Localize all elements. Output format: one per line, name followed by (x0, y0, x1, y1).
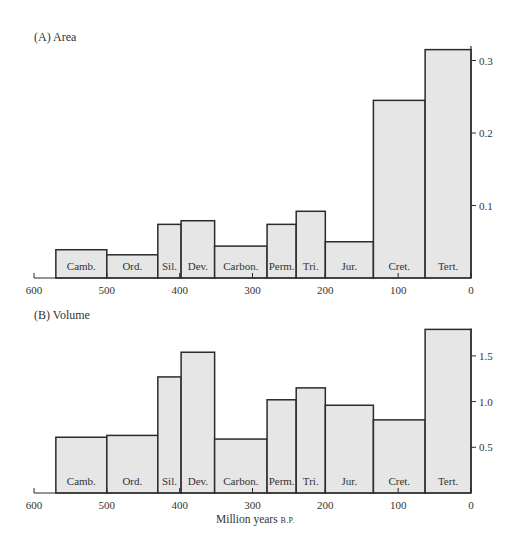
y-tick-label: 0.5 (479, 441, 493, 453)
x-tick-label: 100 (390, 499, 407, 511)
bar-label: Dev. (188, 260, 209, 272)
bar-label: Ord. (122, 260, 142, 272)
bar-dev: Dev. (181, 352, 215, 493)
x-tick-label: 500 (99, 499, 116, 511)
bar-ord: Ord. (107, 255, 158, 278)
bar-label: Tri. (303, 260, 319, 272)
bar-label: Cret. (388, 260, 410, 272)
bar-label: Perm. (269, 475, 295, 487)
bar-label: Ord. (122, 475, 142, 487)
bar-sil: Sil. (158, 377, 181, 493)
bar-carbon: Carbon. (215, 439, 267, 493)
x-tick-label: 300 (244, 499, 261, 511)
x-tick-label: 200 (317, 499, 334, 511)
x-tick-label: 200 (317, 284, 334, 296)
bar-label: Camb. (67, 475, 96, 487)
bar-label: Tri. (303, 475, 319, 487)
y-tick-label: 0.2 (479, 127, 493, 139)
bar-label: Sil. (162, 475, 177, 487)
bar-label: Cret. (388, 475, 410, 487)
bar-label: Carbon. (223, 475, 258, 487)
bar-label: Tert. (438, 260, 459, 272)
bar-perm: Perm. (267, 224, 296, 278)
bar-tert: Tert. (425, 50, 471, 278)
x-axis-title-main: Million years (216, 513, 281, 525)
bar-label: Sil. (162, 260, 177, 272)
bar-cret: Cret. (373, 100, 425, 278)
bar-camb: Camb. (56, 437, 107, 493)
bar-perm: Perm. (267, 400, 296, 493)
x-tick-label: 600 (26, 499, 43, 511)
y-tick-label: 0.3 (479, 55, 493, 67)
bar-tri: Tri. (296, 388, 325, 493)
bar-camb: Camb. (56, 250, 107, 278)
bar-label: Perm. (269, 260, 295, 272)
bar-label: Tert. (438, 475, 459, 487)
bar-tri: Tri. (296, 211, 325, 278)
bar-jur: Jur. (325, 242, 373, 278)
x-tick-label: 500 (99, 284, 116, 296)
bar-label: Camb. (67, 260, 96, 272)
bar-cret: Cret. (373, 420, 425, 493)
x-tick-label: 0 (468, 499, 474, 511)
bar-dev: Dev. (181, 221, 215, 278)
chart-canvas: Camb.Ord.Sil.Dev.Carbon.Perm.Tri.Jur.Cre… (0, 0, 512, 535)
x-axis-title-bp: B.P. (281, 516, 295, 525)
x-tick-label: 400 (171, 499, 188, 511)
x-tick-label: 300 (244, 284, 261, 296)
x-tick-label: 100 (390, 284, 407, 296)
y-tick-label: 0.1 (479, 200, 493, 212)
x-tick-label: 600 (26, 284, 43, 296)
bar-label: Jur. (342, 260, 358, 272)
x-tick-label: 0 (468, 284, 474, 296)
bar-label: Jur. (342, 475, 358, 487)
bar-ord: Ord. (107, 435, 158, 493)
x-axis-title: Million years B.P. (216, 513, 295, 525)
bar-label: Carbon. (223, 260, 258, 272)
bar-sil: Sil. (158, 224, 181, 278)
y-tick-label: 1.0 (479, 396, 493, 408)
bar-tert: Tert. (425, 329, 471, 493)
bar-carbon: Carbon. (215, 246, 267, 278)
bar-label: Dev. (188, 475, 209, 487)
panel-b-volume-chart: Camb.Ord.Sil.Dev.Carbon.Perm.Tri.Jur.Cre… (26, 328, 494, 511)
panel-a-area-chart: Camb.Ord.Sil.Dev.Carbon.Perm.Tri.Jur.Cre… (26, 46, 494, 296)
bar-jur: Jur. (325, 405, 373, 493)
x-tick-label: 400 (171, 284, 188, 296)
y-tick-label: 1.5 (479, 350, 493, 362)
